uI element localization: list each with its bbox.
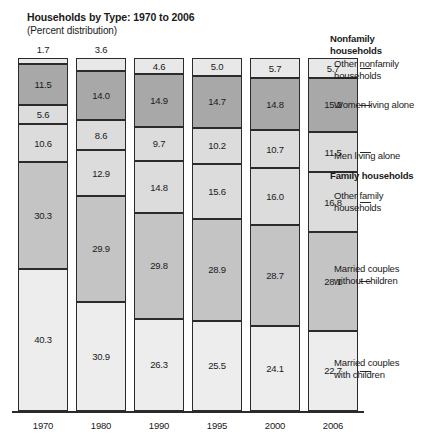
legend-item-men-living-alone: Men living alone xyxy=(334,150,400,162)
bar-segment-value: 9.7 xyxy=(153,138,166,149)
bar-segment[interactable]: 30.3 xyxy=(18,162,68,269)
bar-segment-value: 28.7 xyxy=(266,270,284,281)
bar-segment[interactable]: 4.6 xyxy=(134,58,184,74)
bar-segment[interactable]: 12.9 xyxy=(76,150,126,196)
bar-segment[interactable] xyxy=(76,58,126,71)
bar-segment[interactable]: 5.7 xyxy=(250,58,300,78)
bar-column-1990[interactable]: 4.614.99.714.829.826.3 xyxy=(134,58,184,411)
x-axis-tick-1990: 1990 xyxy=(134,420,184,431)
x-axis-tick-1980: 1980 xyxy=(76,420,126,431)
bar-segment[interactable]: 5.0 xyxy=(192,58,242,76)
bar-segment-value: 10.7 xyxy=(266,144,284,155)
bar-segment-value: 14.9 xyxy=(150,95,168,106)
bar-segment-value: 8.6 xyxy=(95,130,108,141)
bar-segment-value: 1.7 xyxy=(18,44,68,55)
legend-item-married-couples-without-children: Married couples without children xyxy=(334,263,399,286)
x-axis-tick-2006: 2006 xyxy=(308,420,358,431)
bar-segment[interactable]: 11.5 xyxy=(18,64,68,105)
bar-segment[interactable]: 30.9 xyxy=(76,302,126,411)
bar-segment[interactable]: 9.7 xyxy=(134,127,184,161)
bar-segment-value: 14.8 xyxy=(150,182,168,193)
bar-segment[interactable]: 16.0 xyxy=(250,168,300,224)
bar-segment-value: 14.8 xyxy=(266,99,284,110)
bar-segment[interactable]: 26.3 xyxy=(134,319,184,412)
bar-column-2000[interactable]: 5.714.810.716.028.724.1 xyxy=(250,58,300,411)
bar-segment-value: 5.0 xyxy=(211,61,224,72)
bar-segment[interactable]: 40.3 xyxy=(18,269,68,411)
bar-segment-value: 30.3 xyxy=(34,210,52,221)
bar-segment[interactable]: 14.9 xyxy=(134,74,184,127)
legend-item-women-living-alone: Women living alone xyxy=(334,99,414,111)
bar-segment[interactable]: 15.6 xyxy=(192,164,242,219)
bar-segment-value: 14.7 xyxy=(208,96,226,107)
bar-segment-value: 10.6 xyxy=(34,138,52,149)
bar-segment-value: 4.6 xyxy=(153,61,166,72)
x-axis-tick-2000: 2000 xyxy=(250,420,300,431)
bar-segment-value: 29.9 xyxy=(92,243,110,254)
bar-column-1995[interactable]: 5.014.710.215.628.925.5 xyxy=(192,58,242,411)
legend-heading-nonfamily: Nonfamily households xyxy=(330,33,382,56)
x-axis-line xyxy=(12,411,364,413)
bar-segment[interactable]: 10.6 xyxy=(18,124,68,161)
bar-segment-value: 5.7 xyxy=(269,63,282,74)
bar-segment[interactable]: 29.9 xyxy=(76,196,126,302)
bar-segment[interactable]: 8.6 xyxy=(76,120,126,150)
bar-segment-value: 12.9 xyxy=(92,168,110,179)
bar-column-1970[interactable]: 11.55.610.630.340.3 xyxy=(18,58,68,411)
bar-segment[interactable]: 10.7 xyxy=(250,130,300,168)
bar-segment[interactable]: 24.1 xyxy=(250,326,300,411)
bar-segment-value: 11.5 xyxy=(35,79,52,90)
bar-segment[interactable]: 28.7 xyxy=(250,225,300,326)
bar-segment-value: 10.2 xyxy=(208,140,226,151)
x-axis-tick-1995: 1995 xyxy=(192,420,242,431)
bar-segment-value: 29.8 xyxy=(150,260,168,271)
legend-item-other-family-households: Other family households xyxy=(334,190,383,213)
bar-segment-value: 16.0 xyxy=(266,191,284,202)
bar-segment-value: 15.6 xyxy=(208,186,226,197)
bar-segment[interactable]: 14.8 xyxy=(250,78,300,130)
bar-segment[interactable]: 14.8 xyxy=(134,161,184,213)
bar-segment[interactable]: 14.0 xyxy=(76,71,126,120)
bar-segment-value: 30.9 xyxy=(92,351,110,362)
bar-segment-value: 5.6 xyxy=(37,109,50,120)
bar-segment-value: 3.6 xyxy=(76,44,126,55)
legend-heading-family: Family households xyxy=(330,170,414,182)
bar-segment-value: 40.3 xyxy=(34,334,52,345)
bar-segment-value: 28.9 xyxy=(208,264,226,275)
bar-segment[interactable]: 25.5 xyxy=(192,321,242,411)
bar-segment[interactable]: 28.9 xyxy=(192,219,242,321)
bar-segment[interactable]: 5.6 xyxy=(18,105,68,125)
legend-item-married-couples-with-children: Married couples with children xyxy=(334,357,399,380)
bar-segment-value: 24.1 xyxy=(266,363,284,374)
legend-item-other-nonfamily-households: Other nonfamily households xyxy=(334,58,399,81)
bar-segment-value: 25.5 xyxy=(208,360,226,371)
bar-segment-value: 14.0 xyxy=(92,90,110,101)
bar-column-1980[interactable]: 14.08.612.929.930.9 xyxy=(76,58,126,411)
bar-segment[interactable]: 10.2 xyxy=(192,128,242,164)
bar-segment-value: 26.3 xyxy=(150,359,168,370)
bar-segment[interactable]: 14.7 xyxy=(192,76,242,128)
bar-segment[interactable]: 29.8 xyxy=(134,213,184,318)
x-axis-tick-1970: 1970 xyxy=(18,420,68,431)
